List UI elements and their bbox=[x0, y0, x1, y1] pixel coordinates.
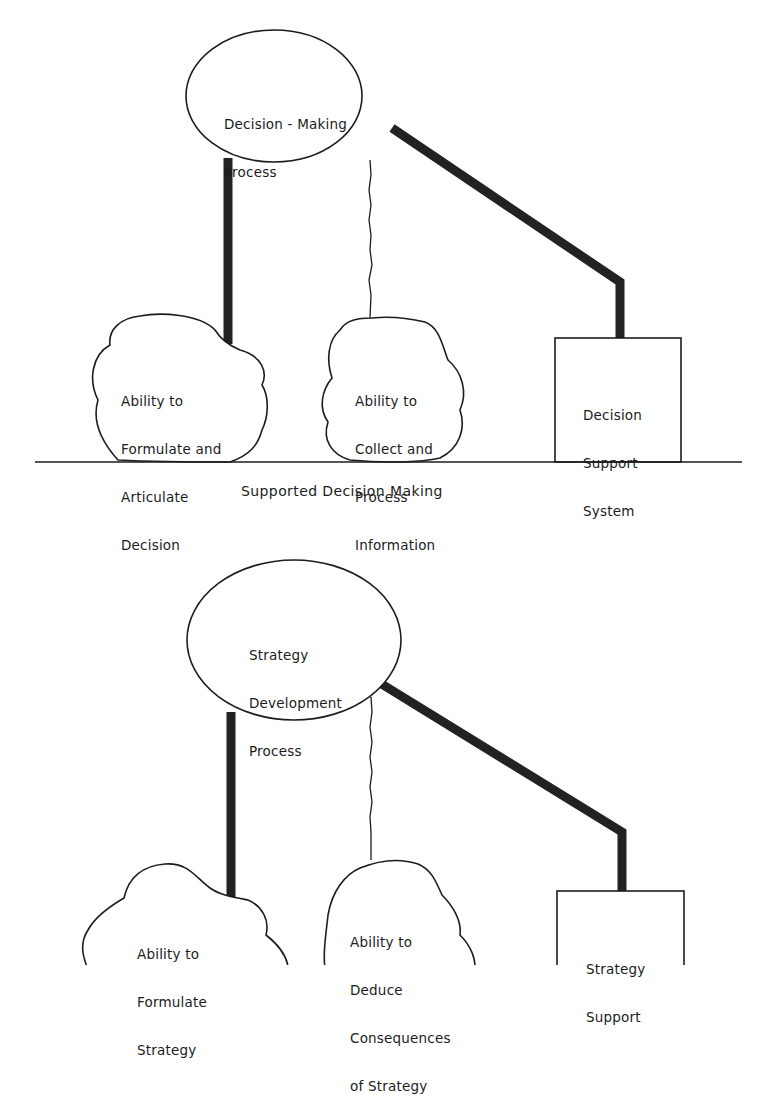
label-line: System bbox=[583, 503, 642, 519]
label-line: Strategy bbox=[249, 647, 342, 663]
thick-connector-right bbox=[392, 128, 620, 340]
label-line: Consequences bbox=[350, 1030, 451, 1046]
process-label: Strategy Development Process bbox=[249, 615, 342, 775]
label-line: Support bbox=[586, 1009, 645, 1025]
label-line: Information bbox=[355, 537, 435, 553]
process-label: Decision - Making Process bbox=[224, 84, 354, 196]
label-line: Process bbox=[249, 743, 342, 759]
middle-ability-label: Ability to Deduce Consequences of Strate… bbox=[350, 902, 451, 1098]
left-ability-label: Ability to Formulate Strategy bbox=[137, 914, 207, 1074]
label-line: Ability to bbox=[355, 393, 435, 409]
label-line: Decision bbox=[583, 407, 642, 423]
support-system-label: Decision Support System bbox=[583, 375, 642, 535]
label-line: Ability to bbox=[350, 934, 451, 950]
label-line: Formulate and bbox=[121, 441, 221, 457]
label-line: Support bbox=[583, 455, 642, 471]
label-line: Deduce bbox=[350, 982, 451, 998]
label-line: Strategy bbox=[586, 961, 645, 977]
label-line: Formulate bbox=[137, 994, 207, 1010]
support-system-label: Strategy Support bbox=[586, 929, 645, 1041]
thick-connector-right bbox=[380, 683, 622, 892]
label-line: Collect and bbox=[355, 441, 435, 457]
label-line: Decision - Making bbox=[224, 116, 354, 132]
label-line: Articulate bbox=[121, 489, 221, 505]
label-line: Ability to bbox=[137, 946, 207, 962]
label-line: Decision bbox=[121, 537, 221, 553]
label-line: Strategy bbox=[137, 1042, 207, 1058]
label-line: Process bbox=[224, 164, 354, 180]
label-line: Ability to bbox=[121, 393, 221, 409]
diagram-caption: Supported Decision Making bbox=[241, 483, 443, 499]
label-line: of Strategy bbox=[350, 1078, 451, 1094]
left-ability-label: Ability to Formulate and Articulate Deci… bbox=[121, 361, 221, 569]
wavy-connector-middle bbox=[369, 160, 372, 318]
middle-ability-label: Ability to Collect and Process Informati… bbox=[355, 361, 435, 569]
wavy-connector-middle bbox=[370, 697, 372, 860]
label-line: Development bbox=[249, 695, 342, 711]
